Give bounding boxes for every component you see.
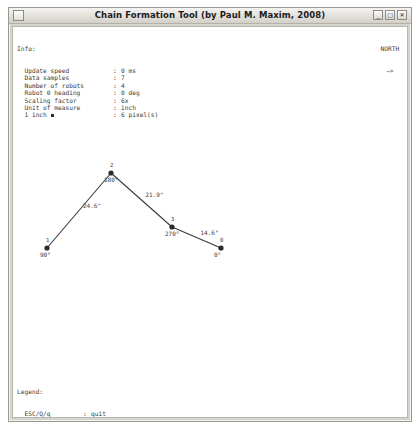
legend-row-key: SPACE/S/s: [17, 417, 83, 418]
legend-rows: ESC/Q/q:quit SPACE/S/s:pause/unpause .:s…: [17, 410, 166, 418]
legend-row-key: ESC/Q/q: [17, 410, 83, 417]
edge-length-label: 14.6": [201, 229, 219, 236]
legend-row-separator: :: [83, 410, 91, 417]
robot-heading-label: 0°: [214, 251, 221, 258]
legend-row: ESC/Q/q:quit: [17, 410, 166, 417]
legend-row: SPACE/S/s:pause/unpause: [17, 417, 166, 418]
robot-node[interactable]: [169, 224, 174, 229]
simulation-canvas[interactable]: Info: Update speed:0 ms Data samples:7 N…: [12, 26, 408, 418]
robot-heading-label: 90°: [40, 251, 51, 258]
robot-node-id: 0: [220, 237, 223, 243]
robot-node-id: 2: [110, 162, 113, 168]
window-menu-icon[interactable]: [13, 10, 24, 21]
robot-node[interactable]: [218, 245, 223, 250]
application-window: Chain Formation Tool (by Paul M. Maxim, …: [8, 7, 412, 422]
chain-graph: 24.6"21.9"14.6"190°2180°3270°00°: [13, 27, 408, 418]
robot-node[interactable]: [108, 170, 113, 175]
close-button[interactable]: ✕: [397, 10, 407, 20]
legend-row-separator: :: [83, 417, 91, 418]
robot-node-id: 1: [46, 237, 49, 243]
robot-node[interactable]: [44, 245, 49, 250]
edge-length-label: 24.6": [83, 202, 101, 209]
legend-panel: Legend: ESC/Q/q:quit SPACE/S/s:pause/unp…: [17, 373, 166, 418]
minimize-button[interactable]: _: [373, 10, 383, 20]
chain-edge: [111, 173, 172, 227]
window-controls: _ □ ✕: [373, 10, 407, 20]
chain-edge: [47, 173, 111, 248]
legend-row-value: quit: [91, 410, 106, 417]
edge-length-label: 21.9": [146, 191, 164, 198]
legend-row-value: pause/unpause: [91, 417, 139, 418]
robot-heading-label: 270°: [165, 230, 179, 237]
window-title: Chain Formation Tool (by Paul M. Maxim, …: [9, 8, 411, 23]
maximize-button[interactable]: □: [385, 10, 395, 20]
legend-heading: Legend:: [17, 388, 166, 395]
window-titlebar[interactable]: Chain Formation Tool (by Paul M. Maxim, …: [9, 8, 411, 24]
robot-node-id: 3: [171, 216, 174, 222]
robot-heading-label: 180°: [104, 176, 118, 183]
